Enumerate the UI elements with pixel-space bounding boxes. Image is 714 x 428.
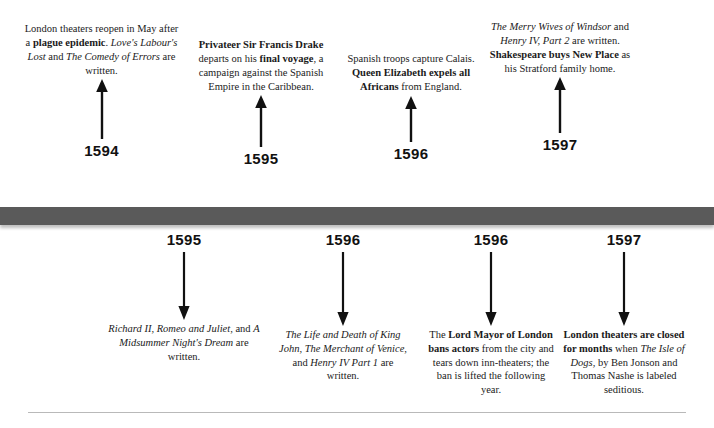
timeline-year-label: 1595 <box>244 149 279 169</box>
timeline-event-text: Privateer Sir Francis Drake departs on h… <box>186 38 336 93</box>
timeline-event-bottom-3: 1596 The Lord Mayor of London bans actor… <box>427 230 555 397</box>
footer-divider <box>28 412 686 413</box>
arrow-up-icon <box>253 95 269 147</box>
timeline-event-top-4: The Merry Wives of Windsor and Henry IV,… <box>484 20 636 155</box>
timeline-axis-bar <box>0 207 714 225</box>
arrow-down-icon <box>616 252 632 326</box>
arrow-down-icon <box>176 252 192 320</box>
timeline-event-top-1: London theaters reopen in May after a pl… <box>24 22 179 161</box>
timeline-event-text: London theaters are closed for months wh… <box>556 328 692 397</box>
timeline-year-label: 1596 <box>326 230 361 250</box>
arrow-up-icon <box>403 96 419 142</box>
timeline-event-text: The Merry Wives of Windsor and Henry IV,… <box>484 20 636 75</box>
timeline-event-text: Richard II, Romeo and Juliet, and A Mids… <box>104 322 264 364</box>
arrow-up-icon <box>94 79 110 139</box>
timeline-event-top-2: Privateer Sir Francis Drake departs on h… <box>186 38 336 169</box>
timeline-event-bottom-2: 1596 The Life and Death of King John, Th… <box>277 230 409 383</box>
timeline-event-text: Spanish troops capture Calais. Queen Eli… <box>345 52 477 94</box>
timeline-year-label: 1594 <box>84 141 119 161</box>
timeline-year-label: 1596 <box>474 230 509 250</box>
timeline-event-bottom-4: 1597 London theaters are closed for mont… <box>556 230 692 397</box>
timeline-diagram: London theaters reopen in May after a pl… <box>0 0 714 428</box>
timeline-year-label: 1597 <box>607 230 642 250</box>
timeline-event-text: The Lord Mayor of London bans actors fro… <box>427 328 555 397</box>
arrow-down-icon <box>483 252 499 326</box>
timeline-event-text: London theaters reopen in May after a pl… <box>24 22 179 77</box>
timeline-year-label: 1596 <box>394 144 429 164</box>
timeline-event-bottom-1: 1595 Richard II, Romeo and Juliet, and A… <box>104 230 264 363</box>
timeline-event-top-3: Spanish troops capture Calais. Queen Eli… <box>345 52 477 163</box>
timeline-event-text: The Life and Death of King John, The Mer… <box>277 328 409 383</box>
arrow-down-icon <box>335 252 351 326</box>
timeline-year-label: 1597 <box>543 135 578 155</box>
timeline-year-label: 1595 <box>167 230 202 250</box>
arrow-up-icon <box>552 77 568 133</box>
